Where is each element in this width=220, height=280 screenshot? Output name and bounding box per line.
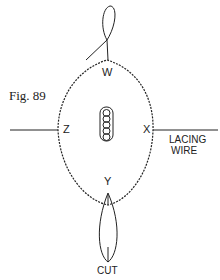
label-w: W bbox=[102, 67, 112, 78]
label-y: Y bbox=[104, 176, 111, 187]
top-loop bbox=[103, 6, 115, 40]
coil-icon bbox=[100, 107, 113, 141]
top-tail bbox=[86, 40, 108, 60]
label-z: Z bbox=[63, 124, 70, 135]
figure-caption: Fig. 89 bbox=[9, 88, 46, 104]
label-wire: WIRE bbox=[171, 146, 197, 156]
label-cut: CUT bbox=[97, 266, 118, 276]
label-x: X bbox=[143, 124, 150, 135]
label-lacing: LACING bbox=[169, 135, 206, 145]
